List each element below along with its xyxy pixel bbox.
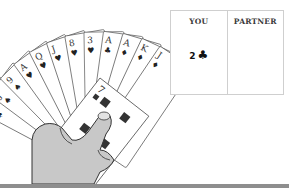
you-played-card: 2♣ <box>171 48 227 62</box>
svg-text:♥: ♥ <box>87 46 94 55</box>
partner-column: PARTNER <box>227 11 284 94</box>
svg-text:♣: ♣ <box>103 46 111 56</box>
you-column: YOU 2♣ <box>171 11 227 94</box>
play-table: YOU 2♣ PARTNER <box>170 10 284 95</box>
club-icon: ♣ <box>198 48 209 62</box>
played-rank: 2 <box>189 51 195 61</box>
svg-text:3: 3 <box>87 35 93 45</box>
you-column-header: YOU <box>171 17 227 26</box>
bottom-status-bar <box>0 184 289 188</box>
partner-played-card <box>228 48 284 62</box>
partner-column-header: PARTNER <box>228 17 284 26</box>
svg-text:♥: ♥ <box>70 48 79 58</box>
